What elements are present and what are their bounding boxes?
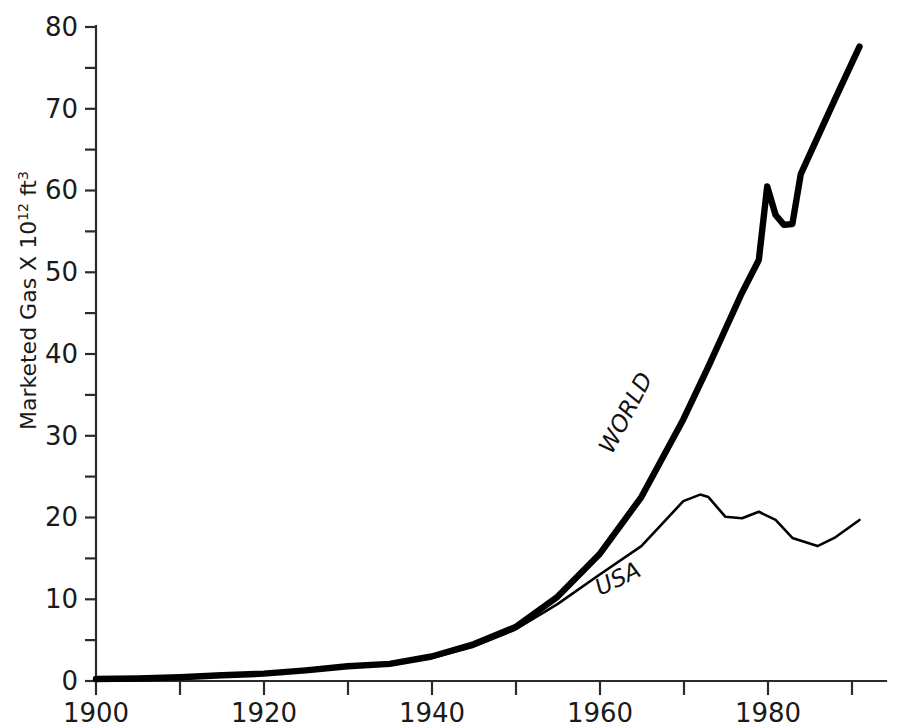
series-label-usa: USA <box>591 556 645 600</box>
x-tick-label-1960: 1960 <box>567 698 633 728</box>
y-tick-label-70: 70 <box>45 94 78 124</box>
series-line-usa <box>96 495 859 680</box>
y-tick-label-80: 80 <box>45 12 78 42</box>
x-tick-label-1940: 1940 <box>399 698 465 728</box>
line-chart: 0 10 20 30 40 50 60 70 80 1900 1920 1940… <box>0 0 908 728</box>
chart-page: 0 10 20 30 40 50 60 70 80 1900 1920 1940… <box>0 0 908 728</box>
y-tick-label-30: 30 <box>45 421 78 451</box>
y-tick-label-50: 50 <box>45 257 78 287</box>
x-tick-label-1900: 1900 <box>63 698 129 728</box>
y-axis-title: Marketed Gas X 1012 ft3 <box>15 171 41 430</box>
y-tick-label-20: 20 <box>45 502 78 532</box>
x-tick-label-1920: 1920 <box>231 698 297 728</box>
series-label-world: WORLD <box>593 368 657 457</box>
y-axis-title-unit-exponent: 3 <box>15 171 31 180</box>
series-line-world <box>96 47 859 679</box>
y-tick-label-10: 10 <box>45 584 78 614</box>
y-axis-title-unit: ft <box>16 180 41 203</box>
y-tick-label-0: 0 <box>61 666 78 696</box>
y-axis-title-prefix: Marketed Gas X 10 <box>16 221 41 430</box>
x-tick-label-1980: 1980 <box>735 698 801 728</box>
y-axis-title-exponent: 12 <box>15 203 31 221</box>
y-tick-label-40: 40 <box>45 339 78 369</box>
y-tick-label-60: 60 <box>45 175 78 205</box>
svg-text:Marketed Gas X 1012 ft3: Marketed Gas X 1012 ft3 <box>15 171 41 430</box>
x-tick-marks <box>96 681 852 695</box>
y-tick-marks <box>85 27 96 681</box>
